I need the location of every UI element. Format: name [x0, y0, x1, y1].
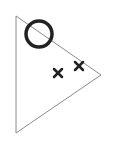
cross-mark-icon	[75, 62, 83, 70]
cross-mark-icon	[54, 69, 62, 77]
cross-marks	[54, 62, 83, 77]
diagram-canvas	[0, 0, 113, 144]
circle-shape	[26, 21, 52, 47]
